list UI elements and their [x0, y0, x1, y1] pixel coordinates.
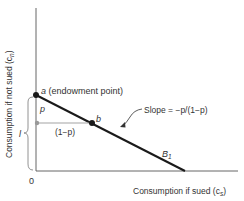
l-label: l [19, 129, 22, 139]
point-b-label: b [96, 114, 101, 124]
y-axis-label: Consumption if not sued (cn) [4, 50, 15, 158]
arrowhead-icon [120, 122, 126, 128]
p-label: p [39, 104, 45, 114]
origin-label: 0 [29, 176, 34, 186]
brace-l [24, 97, 33, 170]
slope-label: Slope = −p/(1−p) [144, 105, 208, 115]
point-b [89, 120, 95, 126]
point-a [33, 92, 39, 98]
x-axis-label: Consumption if sued (cs) [133, 186, 226, 197]
one-minus-p-label: (1−p) [55, 127, 75, 137]
point-a-label: a (endowment point) [41, 86, 123, 96]
guide-point [35, 121, 39, 125]
budget-label: B1 [162, 149, 172, 160]
diagram: Consumption if not sued (cn) Consumption… [0, 0, 244, 201]
